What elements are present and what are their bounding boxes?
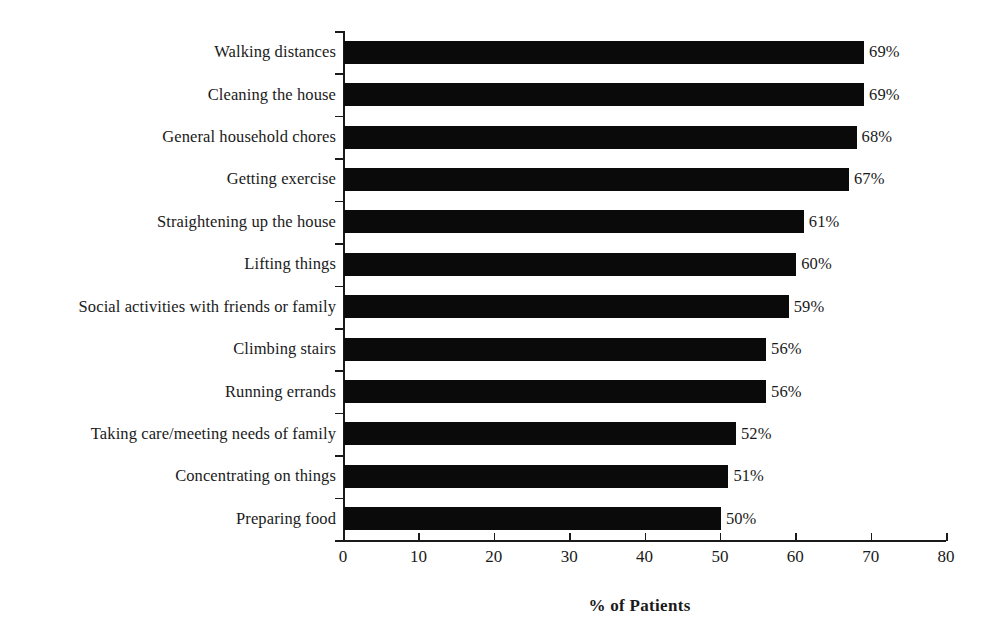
bar-value-label: 59% [794, 299, 825, 316]
bar-value-label: 50% [726, 511, 757, 528]
y-axis-tick [335, 413, 343, 415]
category-label: Straightening up the house [157, 214, 336, 231]
bar-value-label: 69% [869, 44, 900, 61]
bar-chart: Walking distancesCleaning the houseGener… [0, 0, 989, 639]
category-label: Walking distances [214, 44, 336, 61]
x-axis-tick [645, 533, 647, 541]
bar-value-label: 61% [809, 214, 840, 231]
x-axis-tick [418, 533, 420, 541]
x-axis-tick [569, 533, 571, 541]
x-axis-tick-label: 30 [549, 548, 589, 565]
bar-value-label: 56% [771, 341, 802, 358]
bar [344, 210, 804, 233]
bar [344, 465, 728, 488]
x-axis-tick [343, 533, 345, 541]
y-axis-tick [335, 498, 343, 500]
bar [344, 422, 736, 445]
x-axis-tick [795, 533, 797, 541]
y-axis-tick [335, 158, 343, 160]
x-axis-tick [946, 533, 948, 541]
bar [344, 295, 789, 318]
category-label: Taking care/meeting needs of family [91, 426, 336, 443]
category-label: Cleaning the house [208, 87, 336, 104]
bar-value-label: 69% [869, 87, 900, 104]
y-axis-tick [335, 201, 343, 203]
y-axis-tick [335, 370, 343, 372]
category-label: Getting exercise [227, 171, 336, 188]
bar-value-label: 51% [733, 468, 764, 485]
category-label: Preparing food [236, 511, 336, 528]
bar [344, 41, 864, 64]
y-axis-tick [335, 286, 343, 288]
x-axis-tick [871, 533, 873, 541]
bar [344, 507, 721, 530]
y-axis-tick [335, 243, 343, 245]
y-axis-tick [335, 328, 343, 330]
category-label: Concentrating on things [175, 468, 336, 485]
x-axis-tick-label: 50 [700, 548, 740, 565]
bar-value-label: 67% [854, 171, 885, 188]
category-label: General household chores [162, 129, 336, 146]
x-axis-tick [720, 533, 722, 541]
bar-value-label: 52% [741, 426, 772, 443]
x-axis-tick-label: 70 [851, 548, 891, 565]
bar [344, 83, 864, 106]
bar [344, 126, 857, 149]
x-axis-title: % of Patients [0, 596, 989, 616]
bar-value-label: 56% [771, 384, 802, 401]
bar-value-label: 68% [862, 129, 893, 146]
x-axis-title-text: % of Patients [588, 596, 690, 616]
y-axis-tick [335, 116, 343, 118]
x-axis-tick-label: 0 [323, 548, 363, 565]
x-axis-tick [494, 533, 496, 541]
chart-page: Walking distancesCleaning the houseGener… [0, 0, 989, 639]
x-axis-tick-label: 10 [398, 548, 438, 565]
bar-value-label: 60% [801, 256, 832, 273]
x-axis-tick-label: 20 [474, 548, 514, 565]
category-label: Social activities with friends or family [79, 299, 336, 316]
y-axis-tick [335, 455, 343, 457]
bar [344, 253, 796, 276]
x-axis-tick-label: 80 [926, 548, 966, 565]
category-label: Climbing stairs [233, 341, 336, 358]
bar [344, 338, 766, 361]
bar [344, 168, 849, 191]
x-axis-tick-label: 40 [625, 548, 665, 565]
x-axis-tick-label: 60 [775, 548, 815, 565]
bar [344, 380, 766, 403]
category-label: Running errands [225, 384, 336, 401]
y-axis-tick [335, 31, 343, 33]
y-axis-tick [335, 73, 343, 75]
category-label: Lifting things [244, 256, 336, 273]
y-axis-tick [335, 540, 343, 542]
